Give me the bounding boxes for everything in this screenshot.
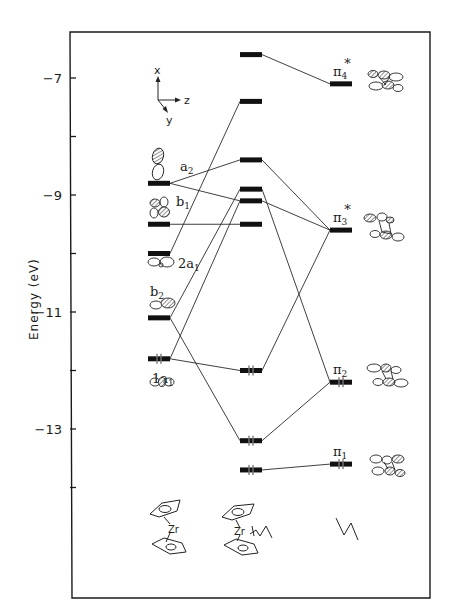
- energy-level-b1: [148, 222, 170, 227]
- energy-level-m3: [240, 157, 262, 162]
- y-tick-label: −7: [43, 71, 62, 86]
- energy-level-m2: [240, 99, 262, 104]
- correlation-line: [262, 464, 330, 470]
- energy-level-m1: [240, 52, 262, 57]
- orbital-pi2-icon: [367, 364, 408, 387]
- orbital-b1-icon: [150, 197, 170, 218]
- correlation-line: [170, 318, 240, 441]
- energy-level-m9: [240, 465, 262, 475]
- y-tick-label: −13: [35, 422, 62, 437]
- energy-level-m4: [240, 187, 262, 192]
- coordinate-axes-icon: x z y: [154, 64, 190, 127]
- energy-level-m8: [240, 436, 262, 446]
- y-axis-label: Energy (eV): [27, 258, 41, 340]
- energy-level-b2: [148, 315, 170, 320]
- zr-label-left: Zr: [168, 524, 180, 535]
- level-label-a2: a2: [180, 159, 194, 176]
- correlation-line: [262, 382, 330, 441]
- orbital-a2-icon: [151, 147, 166, 181]
- energy-level-1a1: [148, 354, 170, 364]
- orbital-sketches-right: [364, 71, 408, 477]
- molecule-butadiene-icon: [336, 518, 358, 540]
- correlation-line: [262, 160, 330, 230]
- correlation-line: [262, 55, 330, 84]
- level-label-b2: b2: [150, 284, 164, 301]
- level-label-2a1: 2a1: [178, 256, 200, 273]
- level-label-pi3: π3*: [333, 202, 351, 227]
- orbital-pi4-icon: [368, 71, 403, 92]
- energy-level-m6: [240, 222, 262, 227]
- orbital-pi3-icon: [364, 213, 404, 241]
- energy-level-pi4: [330, 81, 352, 86]
- correlation-line: [262, 201, 330, 230]
- energy-level-m7: [240, 366, 262, 376]
- energy-level-2a1: [148, 251, 170, 256]
- level-label-pi2: π2: [333, 362, 347, 379]
- correlation-line: [170, 101, 240, 253]
- mo-correlation-diagram: −7−9−11−13 Energy (eV) x z y a2b12a1b21a…: [0, 0, 458, 607]
- orbital-2a1-icon: [148, 257, 174, 267]
- level-labels: a2b12a1b21a1π4*π3*π2π1: [150, 56, 351, 461]
- axis-z-label: z: [184, 94, 190, 107]
- zr-label-middle: Zr: [234, 526, 246, 537]
- molecule-cp2zr-icon: Zr: [150, 500, 186, 554]
- energy-level-m5: [240, 198, 262, 203]
- y-tick-label: −9: [43, 188, 62, 203]
- level-label-pi4: π4*: [333, 56, 351, 81]
- energy-level-pi3: [330, 228, 352, 233]
- energy-level-a2: [148, 181, 170, 186]
- correlation-line: [170, 359, 240, 371]
- correlation-line: [262, 230, 330, 370]
- axis-x-label: x: [154, 64, 161, 77]
- level-label-pi1: π1: [333, 444, 347, 461]
- correlation-line: [262, 189, 330, 382]
- molecule-complex-icon: Zr: [222, 504, 272, 555]
- orbital-pi1-icon: [370, 455, 405, 477]
- orbital-b2-icon: [150, 298, 175, 309]
- axis-y-label: y: [166, 114, 173, 127]
- level-label-b1: b1: [176, 194, 190, 211]
